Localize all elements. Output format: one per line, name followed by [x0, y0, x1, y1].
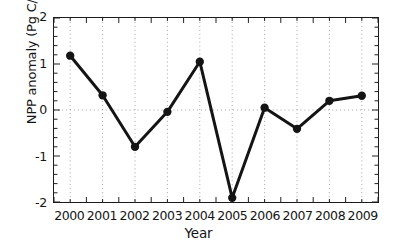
data-point-marker	[196, 58, 204, 66]
chart-figure: 2 1 0 -1 -2 2000200120022003200420052006…	[0, 0, 397, 247]
data-point-marker	[163, 108, 171, 116]
data-point-marker	[66, 52, 74, 60]
data-line	[70, 56, 362, 198]
x-axis-title: Year	[0, 225, 397, 241]
y-tick-label: -2	[11, 195, 47, 210]
data-point-marker	[260, 104, 268, 112]
data-point-marker	[325, 97, 333, 105]
data-point-marker	[131, 143, 139, 151]
data-point-marker	[228, 194, 236, 202]
data-point-marker	[293, 125, 301, 133]
x-tick-label: 2009	[341, 208, 385, 223]
y-axis-title: NPP anomaly (Pg C/y)	[24, 0, 39, 136]
data-point-marker	[358, 92, 366, 100]
data-point-marker	[98, 91, 106, 99]
plot-area	[53, 17, 379, 203]
data-series-layer	[54, 18, 378, 202]
y-tick-label: -1	[11, 149, 47, 164]
